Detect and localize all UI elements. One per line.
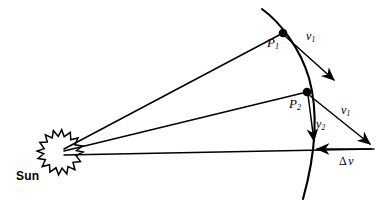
point-p1-label: P1 xyxy=(267,36,279,51)
diagram-canvas xyxy=(0,0,389,212)
sun-label: Sun xyxy=(16,170,39,182)
velocity-v1-at-p1-label-subscript: 1 xyxy=(311,35,315,44)
delta-symbol: Δ xyxy=(339,154,348,168)
point-p2-label: P2 xyxy=(289,97,301,112)
velocity-v1-at-p2-label-subscript: 1 xyxy=(346,109,350,118)
orbital-velocity-diagram: Sun P1 P2 v1 v1 v2 Δv xyxy=(0,0,389,212)
velocity-v1-at-p2-label: v1 xyxy=(341,104,350,118)
point-p2-label-base: P xyxy=(289,96,297,111)
velocity-v2-at-p2-label: v2 xyxy=(316,118,325,132)
point-marker-p1 xyxy=(279,29,288,38)
point-p1-label-subscript: 1 xyxy=(275,42,279,51)
radius-line-sun-to-p1 xyxy=(64,33,283,149)
point-p2-label-subscript: 2 xyxy=(297,103,301,112)
velocity-v2-at-p2-label-subscript: 2 xyxy=(321,123,325,132)
delta-v-label-base: v xyxy=(348,154,353,168)
velocity-v1-at-p1-label: v1 xyxy=(306,30,315,44)
radius-line-sun-to-p2 xyxy=(64,92,307,151)
point-p1-label-base: P xyxy=(267,35,275,50)
reference-axis-line xyxy=(64,149,374,155)
sun-icon xyxy=(37,130,83,175)
delta-v-label: Δv xyxy=(339,155,354,167)
point-marker-p2 xyxy=(303,88,312,97)
